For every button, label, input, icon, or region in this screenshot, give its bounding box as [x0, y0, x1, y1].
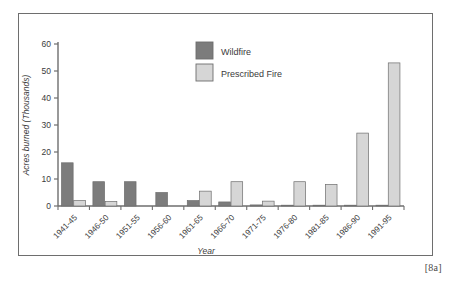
bar — [294, 182, 306, 206]
bar — [388, 63, 400, 206]
x-axis-tick-label: 1951-55 — [114, 213, 142, 241]
bar — [124, 182, 136, 206]
x-axis-tick-label: 1966-70 — [209, 213, 237, 241]
x-axis-tick-label: 1971-75 — [240, 213, 268, 241]
x-axis-title: Year — [197, 246, 216, 256]
bar — [345, 205, 357, 206]
y-axis-tick-label: 20 — [42, 147, 52, 157]
bar — [74, 201, 86, 206]
bar — [219, 202, 231, 206]
y-axis-tick-label: 60 — [42, 39, 52, 49]
y-axis-tick-label: 10 — [42, 174, 52, 184]
bar — [282, 205, 294, 206]
legend-swatch — [196, 64, 213, 81]
x-axis-tick-label: 1941-45 — [51, 213, 79, 241]
legend-label: Prescribed Fire — [221, 69, 282, 79]
legend-label: Wildfire — [221, 47, 251, 57]
bar — [200, 191, 212, 206]
bar — [357, 133, 369, 206]
chart-area: 0102030405060Acres burned (Thousands)194… — [0, 0, 460, 293]
x-axis-tick-label: 1981-85 — [303, 213, 331, 241]
y-axis-tick-label: 30 — [42, 120, 52, 130]
x-axis-tick-label: 1976-80 — [272, 213, 300, 241]
x-axis-tick-label: 1986-90 — [335, 213, 363, 241]
x-axis-tick-label: 1956-60 — [146, 213, 174, 241]
x-axis-tick-label: 1946-50 — [83, 213, 111, 241]
bar — [325, 184, 337, 206]
bar — [187, 201, 199, 206]
bar — [93, 182, 105, 206]
bar-chart: 0102030405060Acres burned (Thousands)194… — [0, 0, 460, 293]
y-axis-title: Acres burned (Thousands) — [21, 75, 31, 177]
bar — [250, 205, 262, 206]
bar — [61, 163, 73, 206]
x-axis-tick-label: 1961-65 — [177, 213, 205, 241]
figure: 0102030405060Acres burned (Thousands)194… — [0, 0, 460, 293]
bar — [156, 193, 168, 207]
bar — [313, 205, 325, 206]
y-axis-tick-label: 50 — [42, 66, 52, 76]
figure-caption: [8a] — [425, 262, 442, 273]
y-axis-tick-label: 40 — [42, 93, 52, 103]
y-axis-tick-label: 0 — [46, 201, 51, 211]
x-axis-tick-label: 1991-95 — [366, 213, 394, 241]
bar — [105, 201, 117, 206]
bar — [376, 205, 388, 206]
legend-swatch — [196, 42, 213, 59]
bar — [231, 182, 243, 206]
bar — [262, 201, 274, 206]
